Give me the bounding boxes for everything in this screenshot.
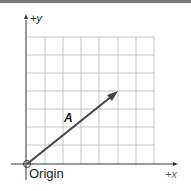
origin-label: Origin [29, 166, 64, 181]
y-axis-arrow-icon [24, 14, 28, 19]
vector-a [27, 91, 118, 164]
vector-label: A [64, 111, 73, 125]
y-axis [24, 14, 28, 180]
grid [27, 37, 154, 164]
coordinate-diagram [0, 0, 191, 191]
x-axis-arrow-icon [173, 162, 178, 166]
x-axis-label: +x [165, 168, 177, 180]
y-axis-label: +y [30, 12, 42, 24]
